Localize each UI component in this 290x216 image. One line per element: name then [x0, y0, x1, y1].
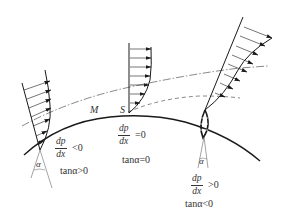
alpha-label-left: α — [36, 160, 41, 169]
pressure-gradient-left: dp dx — [55, 137, 67, 159]
tan-alpha-middle: tanα=0 — [122, 155, 150, 165]
gradient-relation-right: >0 — [208, 180, 219, 190]
pressure-gradient-middle: dp dx — [118, 124, 130, 146]
gradient-relation-middle: =0 — [135, 130, 146, 140]
boundary-layer-edge-line — [22, 66, 268, 126]
velocity-profile-right — [198, 17, 272, 168]
separation-streamline — [128, 96, 240, 112]
point-s-label: S — [120, 105, 125, 115]
alpha-label-right: α — [199, 157, 204, 166]
velocity-profile-left — [22, 70, 52, 188]
diagram-canvas — [0, 0, 290, 216]
tan-alpha-right: tanα<0 — [185, 199, 213, 209]
tan-alpha-left: tanα>0 — [60, 166, 88, 176]
pressure-gradient-right: dp dx — [191, 174, 203, 196]
velocity-profile-middle — [129, 43, 151, 113]
gradient-relation-left: <0 — [72, 143, 83, 153]
point-m-label: M — [90, 105, 98, 115]
